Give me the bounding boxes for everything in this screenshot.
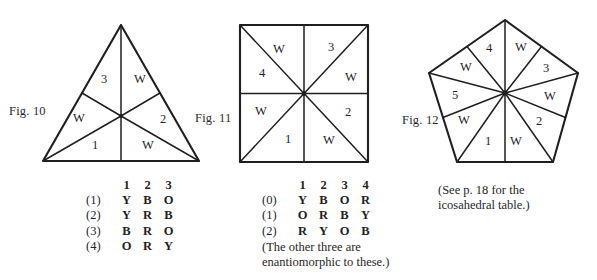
enantiomorphic-note-line2: enantiomorphic to these.)	[262, 255, 389, 269]
pentagon-cell-9: W	[460, 60, 472, 74]
table-header-row: 1234	[262, 178, 376, 193]
square-table-cell-2-1: Y	[313, 224, 334, 239]
table-row: (1)YBO	[86, 193, 179, 208]
square-table-row-label-1: (1)	[262, 208, 292, 223]
triangle-table-cell-0-2: O	[158, 193, 179, 208]
triangle-table-cell-0-0: Y	[116, 193, 137, 208]
triangle-table-row-label-0: (1)	[86, 193, 116, 208]
table-row: (1)ORBY	[262, 208, 376, 223]
square-table-col-header-4: 4	[355, 178, 376, 193]
table-row: (0)YBOR	[262, 193, 376, 208]
triangle-table-cell-2-2: O	[158, 224, 179, 239]
triangle-table-cell-2-0: B	[116, 224, 137, 239]
pentagon-spoke-v-bottom-left	[457, 93, 505, 162]
triangle-table-cell-0-1: B	[137, 193, 158, 208]
triangle-table-cell-1-0: Y	[116, 208, 137, 223]
square-table-cell-1-2: B	[334, 208, 355, 223]
triangle-table-row-label-2: (3)	[86, 224, 116, 239]
square-table: 1234 (0)YBOR(1)ORBY(2)RYOB	[262, 178, 376, 239]
square-table-cell-1-1: R	[313, 208, 334, 223]
pentagon-cell-5: W	[510, 134, 522, 148]
table-corner-cell	[86, 178, 116, 193]
enantiomorphic-note: (The other three are enantiomorphic to t…	[262, 240, 389, 271]
pentagon-spoke-v-left	[429, 73, 505, 93]
triangle-table-head: 123	[86, 178, 179, 193]
pentagon-cell-7: W	[458, 113, 470, 127]
square-table-cell-0-3: R	[355, 193, 376, 208]
square-table-col-header-1: 1	[292, 178, 313, 193]
pentagon-cell-1: W	[515, 40, 527, 54]
triangle-table-cell-3-0: O	[116, 239, 137, 254]
triangle-table-cell-1-2: B	[158, 208, 179, 223]
square-table-cell-0-0: Y	[292, 193, 313, 208]
pentagon-center-hub	[502, 90, 507, 95]
square-table-cell-2-2: O	[334, 224, 355, 239]
icosahedral-note: (See p. 18 for the icosahedral table.)	[438, 183, 530, 214]
pentagon-spoke-v-right	[505, 73, 578, 93]
triangle-color-table: 123 (1)YBO(2)YRB(3)BRO(4)ORY	[86, 178, 179, 254]
triangle-table: 123 (1)YBO(2)YRB(3)BRO(4)ORY	[86, 178, 179, 254]
square-color-table: 1234 (0)YBOR(1)ORBY(2)RYOB	[262, 178, 376, 239]
square-table-col-header-3: 3	[334, 178, 355, 193]
triangle-table-col-header-1: 1	[116, 178, 137, 193]
pentagon-cell-8: 5	[452, 88, 458, 102]
pentagon-cell-0: 4	[486, 41, 493, 55]
square-table-col-header-2: 2	[313, 178, 334, 193]
square-table-cell-0-2: O	[334, 193, 355, 208]
pentagon-cell-6: 1	[485, 134, 491, 148]
table-row: (3)BRO	[86, 224, 179, 239]
square-table-row-label-2: (2)	[262, 224, 292, 239]
square-table-cell-1-0: O	[292, 208, 313, 223]
square-table-row-label-0: (0)	[262, 193, 292, 208]
triangle-table-cell-1-1: R	[137, 208, 158, 223]
pentagon-cell-3: W	[544, 89, 556, 103]
table-header-row: 123	[86, 178, 179, 193]
table-row: (2)YRB	[86, 208, 179, 223]
triangle-table-col-header-2: 2	[137, 178, 158, 193]
square-table-cell-1-3: Y	[355, 208, 376, 223]
square-table-body: (0)YBOR(1)ORBY(2)RYOB	[262, 193, 376, 239]
triangle-table-row-label-1: (2)	[86, 208, 116, 223]
enantiomorphic-note-line1: (The other three are	[262, 240, 361, 254]
square-table-head: 1234	[262, 178, 376, 193]
triangle-table-cell-3-1: R	[137, 239, 158, 254]
table-corner-cell	[262, 178, 292, 193]
triangle-table-cell-3-2: Y	[158, 239, 179, 254]
triangle-table-body: (1)YBO(2)YRB(3)BRO(4)ORY	[86, 193, 179, 254]
icosahedral-note-line2: icosahedral table.)	[438, 198, 530, 213]
pentagon-cell-2: 3	[543, 61, 549, 75]
square-table-cell-2-3: B	[355, 224, 376, 239]
triangle-table-col-header-3: 3	[158, 178, 179, 193]
triangle-table-cell-2-1: R	[137, 224, 158, 239]
square-table-cell-0-1: B	[313, 193, 334, 208]
figure-page: Fig. 10 3W2W1W Fig. 11 W3W2W1W4 Fig. 12	[0, 0, 597, 280]
square-table-cell-2-0: R	[292, 224, 313, 239]
triangle-table-row-label-3: (4)	[86, 239, 116, 254]
table-row: (4)ORY	[86, 239, 179, 254]
table-row: (2)RYOB	[262, 224, 376, 239]
pentagon-cell-4: 2	[536, 114, 542, 128]
icosahedral-note-line1: (See p. 18 for the	[438, 183, 530, 198]
